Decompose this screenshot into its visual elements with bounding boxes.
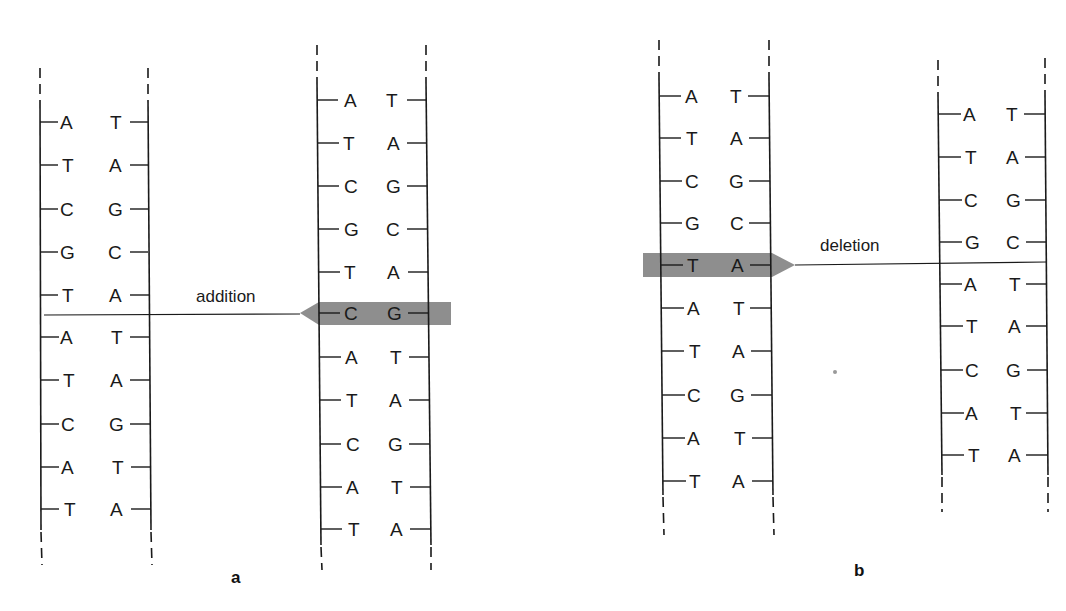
base-pair: A T xyxy=(320,347,429,368)
base-pair: T A xyxy=(321,519,431,540)
panel-a: A T T A C G G C T A xyxy=(40,45,451,587)
svg-text:G: G xyxy=(60,242,75,263)
svg-text:A: A xyxy=(387,262,400,283)
addition-pointer-line xyxy=(44,314,300,315)
svg-text:A: A xyxy=(732,341,745,362)
base-pair: T A xyxy=(319,262,428,283)
svg-text:G: G xyxy=(344,219,359,240)
panel-a-mutated-dna: A T T A C G G C T A xyxy=(300,45,451,570)
svg-text:A: A xyxy=(1006,147,1019,168)
base-pair: T A xyxy=(40,285,149,306)
svg-text:A: A xyxy=(965,403,978,424)
svg-text:A: A xyxy=(731,255,744,276)
svg-text:A: A xyxy=(109,285,122,306)
svg-text:C: C xyxy=(60,199,74,220)
base-pair: C G xyxy=(941,360,1047,381)
svg-text:T: T xyxy=(733,298,745,319)
svg-text:A: A xyxy=(685,86,698,107)
svg-text:T: T xyxy=(343,133,355,154)
base-pair: C G xyxy=(318,176,427,197)
svg-text:G: G xyxy=(387,303,402,324)
svg-text:T: T xyxy=(730,86,742,107)
base-pair: T A xyxy=(320,390,429,411)
svg-text:A: A xyxy=(390,519,403,540)
svg-text:T: T xyxy=(386,90,398,111)
svg-text:G: G xyxy=(109,414,124,435)
svg-text:T: T xyxy=(1010,403,1022,424)
base-pair: A T xyxy=(321,477,430,498)
panel-a-label: a xyxy=(231,568,241,587)
svg-text:C: C xyxy=(1006,232,1020,253)
base-pair: T A xyxy=(660,128,769,149)
svg-text:T: T xyxy=(686,128,698,149)
base-pair: A T xyxy=(939,104,1045,125)
base-pair: A T xyxy=(317,90,426,111)
base-pair: A T xyxy=(660,86,769,107)
svg-text:C: C xyxy=(344,303,358,324)
panel-a-original-dna: A T T A C G G C T A xyxy=(40,68,152,565)
svg-text:C: C xyxy=(965,360,979,381)
svg-text:T: T xyxy=(390,347,402,368)
svg-text:T: T xyxy=(966,316,978,337)
svg-text:T: T xyxy=(968,445,980,466)
base-pair: T A xyxy=(41,499,151,520)
svg-text:C: C xyxy=(386,219,400,240)
svg-text:G: G xyxy=(729,171,744,192)
panel-b: A T T A C G G C T A xyxy=(643,40,1048,580)
svg-text:G: G xyxy=(1006,190,1021,211)
svg-text:A: A xyxy=(60,327,73,348)
svg-text:T: T xyxy=(110,112,122,133)
svg-text:G: G xyxy=(1006,360,1021,381)
svg-text:C: C xyxy=(687,385,701,406)
base-pair: T A xyxy=(662,341,772,362)
svg-text:T: T xyxy=(344,262,356,283)
svg-text:T: T xyxy=(346,390,358,411)
base-pair: T A xyxy=(41,370,150,391)
mutation-diagram: A T T A C G G C T A xyxy=(0,0,1066,611)
svg-text:A: A xyxy=(345,347,358,368)
svg-text:G: G xyxy=(965,232,980,253)
svg-text:A: A xyxy=(963,104,976,125)
base-pair: A T xyxy=(940,274,1046,295)
svg-text:A: A xyxy=(109,155,122,176)
svg-text:G: G xyxy=(386,176,401,197)
svg-text:G: G xyxy=(685,213,700,234)
svg-text:T: T xyxy=(689,471,701,492)
base-pair: G C xyxy=(318,219,427,240)
svg-text:C: C xyxy=(685,171,699,192)
panel-b-label: b xyxy=(854,561,864,580)
base-pair: T A xyxy=(939,147,1045,168)
svg-text:T: T xyxy=(687,255,699,276)
svg-text:C: C xyxy=(344,176,358,197)
panel-b-mutated-dna: A T T A C G G C A T xyxy=(938,58,1048,512)
base-pair: T A xyxy=(40,155,148,176)
svg-text:A: A xyxy=(387,133,400,154)
svg-text:G: G xyxy=(730,385,745,406)
svg-text:A: A xyxy=(964,274,977,295)
base-pair: A T xyxy=(41,327,149,348)
deletion-label: deletion xyxy=(820,236,880,255)
panel-b-original-dna: A T T A C G G C T A xyxy=(643,40,795,535)
base-pair: A T xyxy=(663,428,773,449)
svg-text:T: T xyxy=(111,327,123,348)
svg-text:T: T xyxy=(1009,274,1021,295)
base-pair: C G xyxy=(662,385,772,406)
base-pair: C G xyxy=(660,171,770,192)
deletion-pointer-line xyxy=(795,262,1046,265)
svg-text:C: C xyxy=(61,414,75,435)
svg-text:A: A xyxy=(1008,316,1021,337)
base-pair: T A xyxy=(940,316,1047,337)
base-pair: T A xyxy=(942,445,1048,466)
svg-text:C: C xyxy=(730,213,744,234)
svg-text:A: A xyxy=(60,112,73,133)
svg-text:T: T xyxy=(965,147,977,168)
svg-text:T: T xyxy=(348,519,360,540)
svg-text:A: A xyxy=(687,428,700,449)
svg-text:T: T xyxy=(1006,104,1018,125)
svg-text:G: G xyxy=(388,434,403,455)
svg-text:A: A xyxy=(61,457,74,478)
svg-text:A: A xyxy=(687,298,700,319)
svg-text:T: T xyxy=(689,341,701,362)
base-pair: G C xyxy=(40,242,148,263)
svg-text:C: C xyxy=(108,242,122,263)
